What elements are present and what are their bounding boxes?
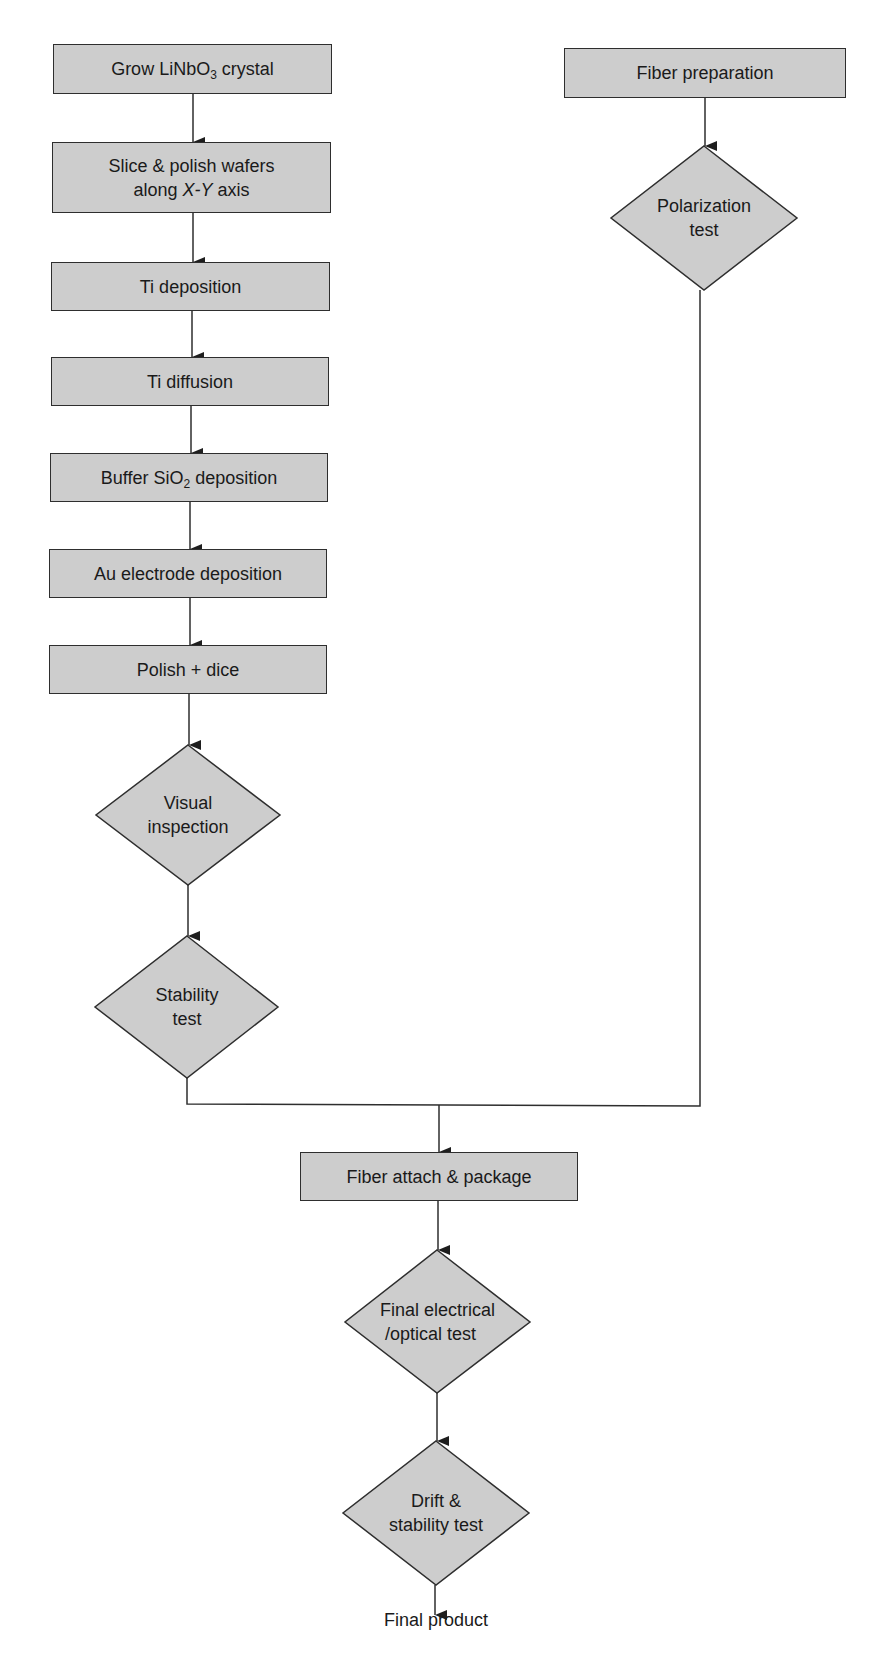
step-ti-deposition-label: Ti deposition xyxy=(140,275,241,299)
step-ti-diffusion-label: Ti diffusion xyxy=(147,370,233,394)
step-fiber-attach: Fiber attach & package xyxy=(300,1152,578,1201)
drift-test-label: Drift & stability test xyxy=(343,1488,529,1538)
step-polish-dice-label: Polish + dice xyxy=(137,658,240,682)
drift-test-line2: stability test xyxy=(389,1513,483,1537)
step-polish-dice: Polish + dice xyxy=(49,645,327,694)
step-slice-line2: along X-Y axis xyxy=(133,178,249,202)
step-grow-crystal-label: Grow LiNbO3 crystal xyxy=(111,57,274,81)
step-au-electrode: Au electrode deposition xyxy=(49,549,327,598)
visual-inspection-label: Visual inspection xyxy=(96,790,280,840)
step-slice-line1: Slice & polish wafers xyxy=(108,154,274,178)
drift-test-line1: Drift & xyxy=(411,1489,461,1513)
step-fiber-preparation-label: Fiber preparation xyxy=(636,61,773,85)
polarization-test-line2: test xyxy=(689,218,718,242)
stability-test-label: Stability test xyxy=(95,982,279,1032)
step-ti-diffusion: Ti diffusion xyxy=(51,357,329,406)
step-buffer-deposition: Buffer SiO2 deposition xyxy=(50,453,328,502)
polarization-test-label: Polarization test xyxy=(611,193,797,243)
step-buffer-deposition-label: Buffer SiO2 deposition xyxy=(101,466,277,490)
step-ti-deposition: Ti deposition xyxy=(51,262,330,311)
stability-test-line2: test xyxy=(172,1007,201,1031)
step-grow-crystal: Grow LiNbO3 crystal xyxy=(53,44,332,94)
step-au-electrode-label: Au electrode deposition xyxy=(94,562,282,586)
stability-test-line1: Stability xyxy=(155,983,218,1007)
step-slice-polish: Slice & polish wafers along X-Y axis xyxy=(52,142,331,213)
step-fiber-preparation: Fiber preparation xyxy=(564,48,846,98)
final-test-label: Final electrical /optical test xyxy=(345,1297,530,1347)
visual-inspection-line1: Visual xyxy=(164,791,213,815)
step-fiber-attach-label: Fiber attach & package xyxy=(346,1165,531,1189)
final-test-line2: /optical test xyxy=(385,1322,476,1346)
process-flowchart: Grow LiNbO3 crystal Slice & polish wafer… xyxy=(0,0,882,1673)
visual-inspection-line2: inspection xyxy=(147,815,228,839)
polarization-test-line1: Polarization xyxy=(657,194,751,218)
final-test-line1: Final electrical xyxy=(380,1298,495,1322)
final-product-label: Final product xyxy=(336,1610,536,1631)
